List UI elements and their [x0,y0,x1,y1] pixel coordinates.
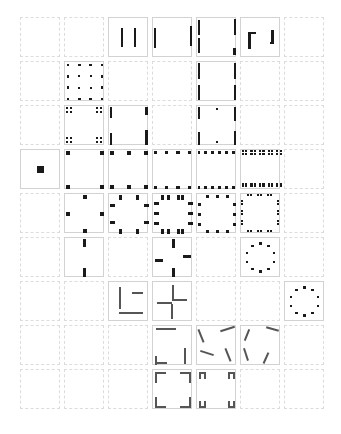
motif-dot [273,261,276,264]
grid-cell-r7-c5 [240,325,280,365]
motif-bar [167,229,170,234]
motif-dot [90,75,92,77]
motif-bar [262,153,264,155]
motif-segment [156,362,167,364]
motif-bar [119,195,122,200]
grid-cell-r0-c2 [108,17,148,57]
motif-bar [181,195,184,200]
motif-bar [165,186,168,189]
motif-dot [70,141,72,143]
motif-bar [136,229,139,234]
grid-cell-r4-c6 [284,193,324,233]
grid-cell-r2-c6 [284,105,324,145]
motif-dot [246,261,249,264]
motif-bar [134,28,136,47]
grid-cell-r4-c5 [240,193,280,233]
motif-dot [66,111,68,113]
motif-bar [198,223,201,226]
motif-bar [232,186,235,189]
motif-dot [70,107,72,109]
motif-bar [250,150,252,152]
motif-dot [67,75,70,78]
motif-bar [198,38,200,53]
motif-bar [100,185,105,190]
motif-segment [199,372,201,379]
grid-cell-r1-c3 [152,61,192,101]
motif-dot [101,64,104,67]
motif-dot [101,98,104,101]
motif-bar [218,151,221,154]
motif-dot [67,98,70,101]
grid-cell-r7-c6 [284,325,324,365]
motif-bar [66,185,71,190]
motif-bar [233,213,236,216]
grid-cell-r5-c3 [152,237,192,277]
grid-cell-r7-c3 [152,325,192,365]
motif-segment [171,304,173,319]
motif-bar [198,20,201,35]
motif-bar [277,203,279,205]
motif-bar [110,107,113,118]
motif-bar [262,183,264,185]
grid-cell-r0-c0 [20,17,60,57]
motif-bar [276,150,278,152]
motif-bar [254,150,256,152]
motif-bar [110,133,113,145]
motif-dot [267,268,270,271]
motif-segment [233,372,235,379]
grid-cell-r4-c0 [20,193,60,233]
motif-segment [155,397,157,408]
grid-cell-r2-c0 [20,105,60,145]
grid-cell-r5-c0 [20,237,60,277]
motif-segment [172,299,187,301]
motif-bar [241,210,243,212]
motif-dot [303,286,306,289]
motif-bar [247,230,249,232]
motif-bar [268,153,270,155]
motif-dot [70,137,72,139]
motif-segment [220,326,235,332]
motif-bar [144,221,149,224]
grid-cell-r3-c1 [64,149,104,189]
motif-bar [181,229,184,234]
motif-bar [206,195,209,198]
motif-bar [248,32,256,34]
motif-bar [277,223,279,225]
grid-cell-r7-c2 [108,325,148,365]
motif-dot [273,252,276,255]
motif-segment [197,329,204,343]
motif-segment [224,348,231,362]
motif-bar [268,183,270,185]
motif-bar [154,202,159,205]
motif-segment [204,372,206,379]
motif-dot [303,314,306,317]
motif-bar [267,194,269,196]
grid-cell-r2-c5 [240,105,280,145]
motif-dot [67,86,70,89]
motif-dot [259,270,262,273]
grid-cell-r1-c6 [284,61,324,101]
motif-bar [204,151,207,154]
grid-cell-r5-c4 [196,237,236,277]
grid-cell-r4-c4 [196,193,236,233]
motif-bar [83,229,88,234]
grid-cell-r3-c5 [240,149,280,189]
motif-bar [188,212,193,215]
motif-bar [198,107,201,119]
motif-segment [157,302,172,304]
grid-cell-r2-c4 [196,105,236,145]
grid-cell-r2-c1 [64,105,104,145]
motif-bar [268,185,270,187]
motif-bar [260,230,262,232]
motif-segment [172,285,174,300]
motif-dot [317,305,320,308]
motif-bar [83,195,88,200]
grid-cell-r1-c1 [64,61,104,101]
motif-dot [267,245,270,248]
motif-dot [100,111,102,113]
grid-cell-r8-c2 [108,369,148,409]
motif-bar [262,185,264,187]
motif-bar [271,185,273,187]
motif-dot [311,312,314,315]
motif-bar [257,194,259,196]
